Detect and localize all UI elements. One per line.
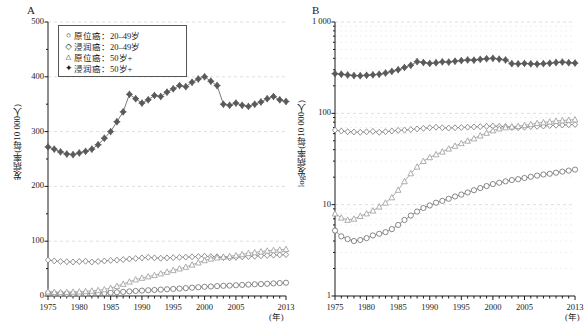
- circle-icon: ○: [63, 30, 74, 40]
- legend-item-0: ○ 原位癌：20–49岁: [63, 29, 181, 40]
- y-tick-label: 1 000: [295, 16, 331, 26]
- y-tick-label: 200: [8, 180, 44, 190]
- x-tick-label: 1990: [414, 302, 446, 312]
- diamond-filled-icon: ✦: [63, 63, 74, 73]
- y-tick-label: 300: [8, 126, 44, 136]
- x-tick-label: 2005: [508, 302, 540, 312]
- y-tick-label: 500: [8, 16, 44, 26]
- x-tick-label: 1995: [157, 302, 189, 312]
- y-tick-label: 10: [295, 199, 331, 209]
- x-tick-label: 1985: [95, 302, 127, 312]
- legend-label-3: 浸润癌：50岁+: [74, 62, 132, 74]
- panel-b: B log发病率(每10 000人) (年) 1101001 000197519…: [290, 0, 585, 330]
- x-tick-label: 1990: [126, 302, 158, 312]
- panel-a: A 发病率(每10 000人) ○ 原位癌：20–49岁 ◇ 浸润癌：20–49…: [0, 0, 295, 330]
- x-tick-label: 1980: [63, 302, 95, 312]
- y-tick-label: 1: [295, 290, 331, 300]
- y-tick-label: 100: [8, 235, 44, 245]
- x-tick-label: 1975: [319, 302, 351, 312]
- legend: ○ 原位癌：20–49岁 ◇ 浸润癌：20–49岁 △ 原位癌：50岁+ ✦ 浸…: [58, 25, 187, 77]
- x-tick-label: 2000: [477, 302, 509, 312]
- y-tick-label: 400: [8, 71, 44, 81]
- diamond-icon: ◇: [63, 41, 74, 51]
- x-tick-label: 1995: [445, 302, 477, 312]
- legend-item-1: ◇ 浸润癌：20–49岁: [63, 40, 181, 51]
- x-tick-label: 2013: [559, 302, 585, 312]
- y-tick-label: 0: [8, 290, 44, 300]
- legend-item-3: ✦ 浸润癌：50岁+: [63, 62, 181, 73]
- x-tick-label: 2005: [220, 302, 252, 312]
- x-tick-label: 1985: [382, 302, 414, 312]
- legend-item-2: △ 原位癌：50岁+: [63, 51, 181, 62]
- x-tick-label: 1980: [351, 302, 383, 312]
- y-tick-label: 100: [295, 107, 331, 117]
- figure-root: A 发病率(每10 000人) ○ 原位癌：20–49岁 ◇ 浸润癌：20–49…: [0, 0, 585, 330]
- x-tick-label: 2000: [189, 302, 221, 312]
- panel-b-plot: [290, 0, 585, 330]
- x-tick-label: 1975: [32, 302, 64, 312]
- triangle-icon: △: [63, 53, 74, 61]
